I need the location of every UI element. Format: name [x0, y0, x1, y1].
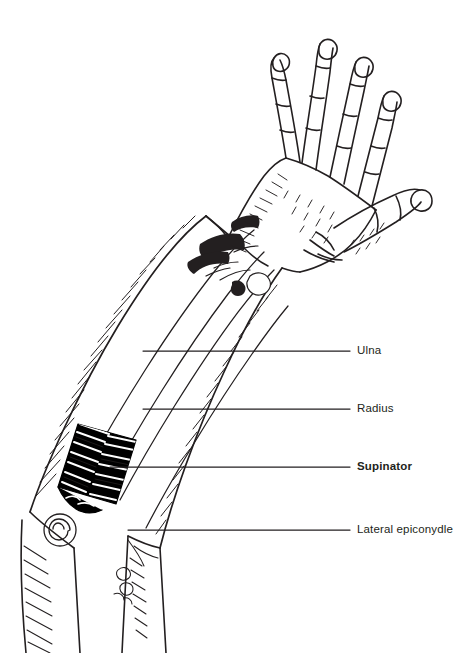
label-lateral-epicondyle: Lateral epiconydle	[357, 524, 453, 536]
upper-arm-hatching	[24, 546, 52, 653]
finger-middle	[302, 39, 337, 170]
finger-little	[358, 91, 401, 206]
thumb	[304, 189, 432, 262]
finger-index	[271, 54, 300, 162]
radius-bone	[120, 270, 288, 528]
label-supinator: Supinator	[357, 461, 412, 473]
supinator-muscle	[58, 424, 136, 513]
thumb-hatching	[350, 223, 384, 254]
upper-arm	[21, 512, 166, 653]
label-radius: Radius	[357, 403, 394, 415]
forearm-illustration	[0, 0, 461, 653]
leader-lines	[110, 351, 350, 530]
label-ulna: Ulna	[357, 345, 381, 357]
hand-hatching	[232, 174, 334, 252]
elbow-detail-hatching	[114, 540, 158, 638]
anatomy-figure: Ulna Radius Supinator Lateral epiconydle	[0, 0, 461, 653]
lateral-epicondyle-marker	[44, 514, 76, 546]
